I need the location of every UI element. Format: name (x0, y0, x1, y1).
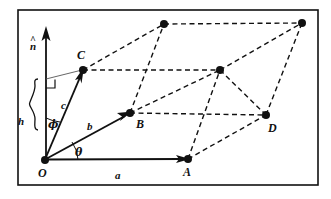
vector-a-shaft (45, 159, 182, 160)
label-height-h: h (18, 115, 24, 127)
label-angle-phi: ϕ (48, 118, 59, 131)
vertex-dot-fartop (298, 19, 306, 27)
vertex-dot-A (184, 155, 192, 163)
label-vertex-B: B (135, 117, 144, 131)
figure-background (0, 0, 331, 199)
parallelepiped-diagram: O A B C D a b c h ϕ θ n ^ (0, 0, 331, 199)
label-angle-theta: θ (75, 146, 83, 159)
vertex-dot-D (262, 111, 270, 119)
vertex-dot-Cplusa (160, 20, 168, 28)
label-vector-b: b (87, 120, 93, 132)
vertex-dot-C (79, 66, 87, 74)
label-vector-a: a (115, 169, 121, 181)
figure-page: O A B C D a b c h ϕ θ n ^ (0, 0, 331, 199)
vertex-dot-Bplusa (216, 66, 224, 74)
label-vector-c: c (61, 99, 66, 111)
vertex-dot-B (126, 109, 134, 117)
vertex-dot-O (41, 156, 49, 164)
label-vertex-A: A (182, 165, 191, 179)
normal-vector-hat-icon: ^ (30, 34, 36, 45)
label-vertex-C: C (77, 48, 86, 62)
label-vertex-D: D (267, 121, 277, 135)
label-vertex-O: O (38, 166, 47, 180)
